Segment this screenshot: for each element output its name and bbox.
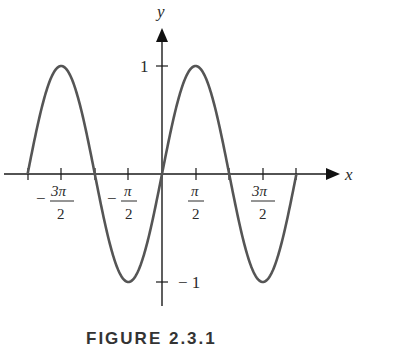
svg-text:−: −	[36, 189, 46, 208]
x-tick-label-neg-3pi-2: − 3π 2	[36, 183, 74, 222]
svg-text:3π: 3π	[50, 183, 67, 199]
svg-text:−: −	[107, 189, 117, 208]
svg-text:π: π	[124, 183, 132, 199]
y-tick-label-neg1: − 1	[178, 273, 200, 292]
svg-text:2: 2	[259, 206, 267, 222]
y-tick-label-1: 1	[140, 57, 149, 76]
x-tick-label-3pi-2: 3π 2	[251, 183, 275, 222]
svg-text:π: π	[191, 183, 199, 199]
svg-text:2: 2	[192, 206, 200, 222]
y-axis-arrow-icon	[156, 28, 168, 42]
x-tick-label-pi-2: π 2	[188, 183, 204, 222]
x-axis-arrow-icon	[326, 168, 340, 180]
figure-caption: FIGURE 2.3.1	[86, 330, 286, 342]
svg-text:2: 2	[125, 206, 133, 222]
svg-text:3π: 3π	[251, 183, 268, 199]
x-axis-label: x	[344, 165, 353, 184]
x-tick-label-neg-pi-2: − π 2	[107, 183, 137, 222]
svg-text:2: 2	[57, 206, 65, 222]
y-axis-label: y	[155, 2, 165, 21]
